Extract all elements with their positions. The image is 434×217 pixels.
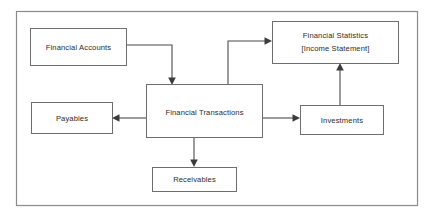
node-financial-accounts-label: Financial Accounts: [46, 43, 112, 52]
node-financial-statistics-box[interactable]: [273, 22, 399, 64]
node-financial-statistics-label-line2: [Income Statement]: [301, 44, 369, 53]
node-investments[interactable]: Investments: [301, 106, 384, 135]
node-financial-accounts[interactable]: Financial Accounts: [31, 29, 127, 66]
node-financial-statistics[interactable]: Financial Statistics [Income Statement]: [273, 22, 399, 64]
node-payables-label: Payables: [56, 114, 88, 123]
flowchart-diagram: Financial Accounts Financial Statistics …: [0, 0, 434, 217]
node-investments-label: Investments: [321, 116, 363, 125]
node-receivables-label: Receivables: [173, 175, 216, 184]
node-receivables[interactable]: Receivables: [153, 168, 237, 192]
node-financial-statistics-label-line1: Financial Statistics: [303, 31, 368, 40]
node-financial-transactions-label: Financial Transactions: [165, 108, 243, 117]
node-financial-transactions[interactable]: Financial Transactions: [147, 85, 263, 138]
node-payables[interactable]: Payables: [32, 103, 113, 134]
diagram-canvas: Financial Accounts Financial Statistics …: [0, 0, 434, 217]
